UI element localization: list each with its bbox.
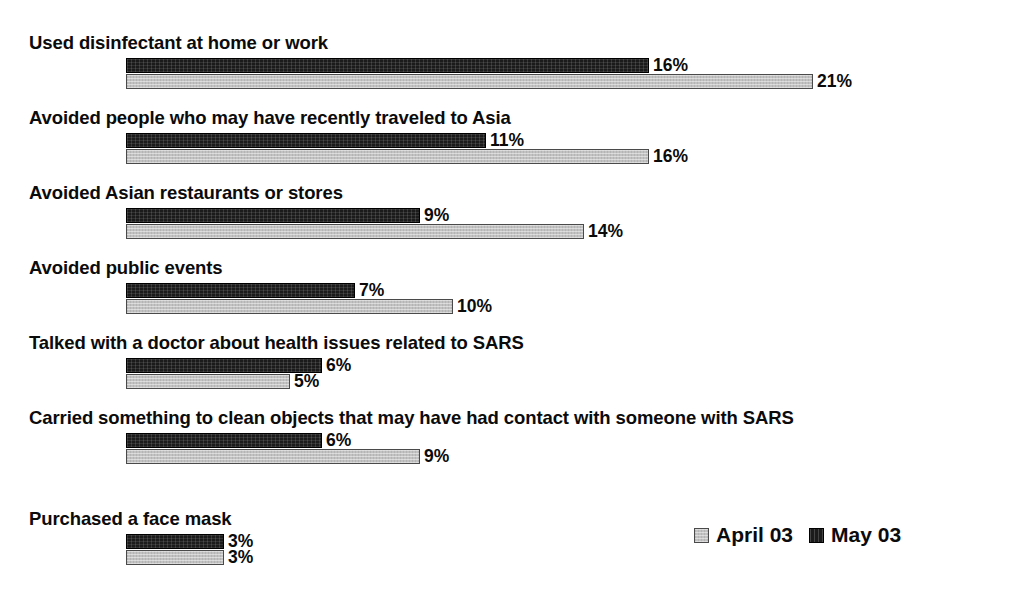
bar-april [126,374,290,389]
bar-value-may: 6% [326,431,351,450]
bar-chart: Used disinfectant at home or work 16% 21… [0,0,1030,605]
bar-pair: 6% 9% [0,433,1030,466]
bar-value-april: 3% [228,548,253,567]
bar-april [126,550,224,565]
bar-may [126,358,322,373]
bar-may [126,534,224,549]
legend-entry-may: May 03 [809,524,901,546]
category-label: Talked with a doctor about health issues… [29,332,524,353]
bar-may [126,208,420,223]
category-label: Avoided people who may have recently tra… [29,107,511,128]
category-label: Carried something to clean objects that … [29,407,794,428]
bar-pair: 11% 16% [0,133,1030,166]
bar-pair: 16% 21% [0,58,1030,91]
category-label: Avoided Asian restaurants or stores [29,182,343,203]
category-label: Avoided public events [29,257,223,278]
bar-value-april: 9% [424,447,449,466]
legend-swatch-may-icon [809,528,824,543]
bar-value-april: 5% [294,372,319,391]
bar-april [126,449,420,464]
bar-value-april: 14% [588,222,623,241]
bar-value-april: 16% [653,147,688,166]
bar-april [126,299,453,314]
bar-april [126,224,584,239]
bar-may [126,433,322,448]
bar-value-may: 16% [653,56,688,75]
category-label: Used disinfectant at home or work [29,32,328,53]
legend-label-may: May 03 [831,524,901,546]
legend-entry-april: April 03 [694,524,793,546]
bar-may [126,58,649,73]
chart-legend: April 03 May 03 [694,521,901,549]
category-label: Purchased a face mask [29,508,232,529]
legend-swatch-april-icon [694,528,709,543]
bar-value-may: 11% [490,131,524,150]
bar-value-april: 21% [817,72,852,91]
bar-pair: 6% 5% [0,358,1030,391]
bar-value-april: 10% [457,297,492,316]
legend-label-april: April 03 [716,524,793,546]
bar-pair: 7% 10% [0,283,1030,316]
bar-value-may: 7% [359,281,384,300]
bar-may [126,283,355,298]
bar-may [126,133,486,148]
bar-april [126,149,649,164]
bar-value-may: 9% [424,206,449,225]
bar-april [126,74,813,89]
bar-value-may: 6% [326,356,351,375]
bar-pair: 9% 14% [0,208,1030,241]
